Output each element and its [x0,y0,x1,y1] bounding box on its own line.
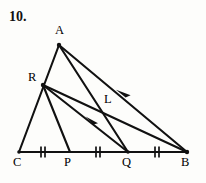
vertex-label-A: A [55,24,64,37]
vertex-dot-B [185,150,189,154]
vertex-dot-R [41,83,45,87]
vertex-dot-Q [126,150,130,154]
segment-CA [19,45,59,152]
vertex-label-C: C [13,156,21,169]
segment-AB [59,45,187,152]
vertex-label-B: B [181,156,189,169]
vertex-label-R: R [28,71,36,84]
vertex-dot-C [17,150,21,154]
vertex-label-P: P [64,156,71,169]
geometry-figure: 10. [0,0,206,183]
vertex-dot-A [57,43,61,47]
vertex-label-Q: Q [122,156,131,169]
triangle-diagram [0,0,206,183]
vertex-label-L: L [104,93,112,106]
segment-AQ [59,45,128,152]
